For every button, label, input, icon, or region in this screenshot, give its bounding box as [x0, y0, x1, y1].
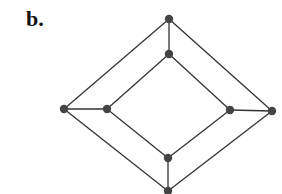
edge-inner-top-inner-left [107, 54, 169, 109]
node-inner-top [165, 50, 173, 58]
node-inner-right [226, 106, 234, 114]
edge-outer-left-outer-bottom [64, 109, 168, 191]
graph-edges [64, 19, 272, 191]
node-inner-bottom [164, 154, 172, 162]
edge-outer-top-outer-left [64, 19, 169, 109]
edge-outer-right-outer-top [169, 19, 272, 111]
node-inner-left [103, 105, 111, 113]
edge-inner-right-inner-top [169, 54, 230, 110]
node-outer-right [268, 107, 276, 115]
edge-outer-bottom-outer-right [168, 111, 272, 191]
node-outer-top [165, 15, 173, 23]
nested-diamond-graph [0, 0, 282, 194]
node-outer-left [60, 105, 68, 113]
edge-outer-right-inner-right [230, 110, 272, 111]
